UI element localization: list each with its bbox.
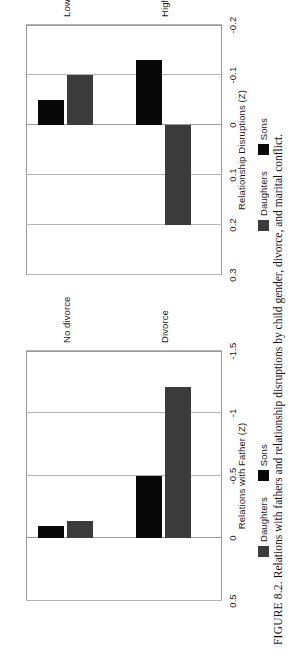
bar-daughters-high-discord bbox=[165, 125, 191, 225]
axis-tick-label: 0.5 bbox=[227, 594, 238, 608]
category-label: High Discord bbox=[159, 0, 170, 17]
bar-sons-low-discord bbox=[38, 100, 64, 125]
figure-page: 0.50-0.5-1-1.5 No divorceDivorce Relatio… bbox=[0, 0, 300, 663]
legend-swatch-sons bbox=[258, 470, 269, 481]
axis-tick-label: 0 bbox=[227, 535, 238, 540]
bar-sons-divorce bbox=[136, 476, 162, 539]
bar-sons-no-divorce bbox=[38, 526, 64, 539]
legend-item-sons: Sons bbox=[258, 444, 269, 481]
figure-number: FIGURE 8.2. bbox=[272, 581, 284, 645]
axis-tick-label: -1.5 bbox=[227, 343, 238, 360]
legend-item-daughters: Daughters bbox=[258, 497, 269, 557]
gridline bbox=[26, 274, 222, 275]
gridline bbox=[26, 475, 222, 476]
axis-tick-label: -0.2 bbox=[227, 17, 238, 34]
axis-tick-label: -0.1 bbox=[227, 67, 238, 84]
legend-swatch-daughters bbox=[258, 546, 269, 557]
axis-tick-label: -1 bbox=[227, 409, 238, 418]
axis-tick-label: 0.3 bbox=[227, 268, 238, 282]
legend-label-sons: Sons bbox=[258, 444, 269, 466]
gridline bbox=[26, 174, 222, 175]
gridline bbox=[26, 24, 222, 25]
axis-tick-label: 0.2 bbox=[227, 218, 238, 232]
axis-title-right: Relationship Disruptions (Z) bbox=[236, 90, 247, 210]
chart-relationship-disruptions: 0.30.20.10-0.1-0.2 Low DiscordHigh Disco… bbox=[0, 0, 300, 327]
plot-area-right bbox=[26, 25, 222, 275]
axis-title-left: Relations with Father (Z) bbox=[236, 423, 247, 530]
legend-item-sons: Sons bbox=[258, 118, 269, 155]
gridline bbox=[26, 600, 222, 601]
gridline bbox=[26, 74, 222, 75]
legend-right: Daughters Sons bbox=[258, 118, 269, 231]
bar-daughters-no-divorce bbox=[67, 521, 93, 539]
legend-label-sons: Sons bbox=[258, 118, 269, 140]
gridline bbox=[26, 412, 222, 413]
bar-sons-high-discord bbox=[136, 60, 162, 125]
figure-caption: FIGURE 8.2. Relations with fathers and r… bbox=[272, 15, 284, 645]
gridline bbox=[26, 224, 222, 225]
gridline bbox=[26, 350, 222, 351]
legend-left: Daughters Sons bbox=[258, 444, 269, 557]
category-label: Low Discord bbox=[61, 0, 72, 17]
rotated-page-wrapper: 0.50-0.5-1-1.5 No divorceDivorce Relatio… bbox=[0, 0, 300, 663]
figure-caption-text: Relations with fathers and relationship … bbox=[272, 134, 284, 578]
plot-area-left bbox=[26, 351, 222, 601]
legend-label-daughters: Daughters bbox=[258, 497, 269, 542]
bar-daughters-divorce bbox=[165, 387, 191, 538]
legend-label-daughters: Daughters bbox=[258, 171, 269, 216]
legend-swatch-daughters bbox=[258, 220, 269, 231]
legend-item-daughters: Daughters bbox=[258, 171, 269, 231]
chart-relations-with-father: 0.50-0.5-1-1.5 No divorceDivorce Relatio… bbox=[0, 331, 300, 663]
legend-swatch-sons bbox=[258, 144, 269, 155]
bar-daughters-low-discord bbox=[67, 75, 93, 125]
